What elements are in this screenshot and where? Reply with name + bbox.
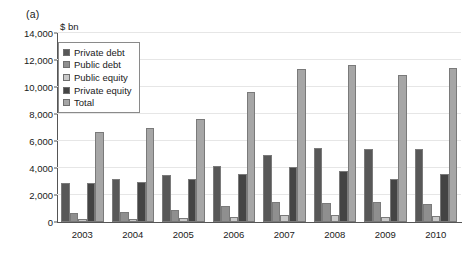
bar[interactable]: [331, 215, 340, 222]
bar-group: 2007: [259, 33, 310, 222]
bar[interactable]: [179, 218, 188, 222]
legend-swatch-icon: [63, 61, 70, 68]
bar[interactable]: [280, 215, 289, 222]
y-axis-tick-label: 8,000: [29, 109, 57, 120]
legend-item[interactable]: Private equity: [63, 84, 132, 97]
bar[interactable]: [221, 206, 230, 222]
bar[interactable]: [137, 182, 146, 223]
bar[interactable]: [188, 179, 197, 222]
bar[interactable]: [297, 69, 306, 222]
x-axis-tick-label: 2006: [209, 229, 260, 240]
bar-group: 2008: [310, 33, 361, 222]
bar-group: 2010: [411, 33, 462, 222]
bar[interactable]: [87, 183, 96, 222]
bar[interactable]: [322, 203, 331, 222]
x-axis-tick-label: 2005: [158, 229, 209, 240]
bar[interactable]: [78, 219, 87, 222]
x-axis-tick-label: 2007: [259, 229, 310, 240]
figure: (a) $ bn 02,0004,0006,0008,00010,00012,0…: [0, 0, 476, 266]
bar[interactable]: [440, 174, 449, 222]
y-axis-tick-label: 4,000: [29, 163, 57, 174]
x-axis-line: [57, 222, 462, 223]
bar[interactable]: [263, 155, 272, 223]
legend-item[interactable]: Public debt: [63, 59, 132, 72]
bar[interactable]: [415, 149, 424, 222]
bar[interactable]: [432, 216, 441, 222]
bar[interactable]: [348, 65, 357, 222]
y-axis-tick-label: 6,000: [29, 136, 57, 147]
bar-group-bars: [411, 33, 462, 222]
bar[interactable]: [146, 128, 155, 222]
bar-group-bars: [158, 33, 209, 222]
panel-label: (a): [26, 8, 39, 20]
bar-group-bars: [310, 33, 361, 222]
bar[interactable]: [171, 210, 180, 222]
bar[interactable]: [272, 202, 281, 222]
bar[interactable]: [449, 68, 458, 222]
bar[interactable]: [238, 174, 247, 222]
bar[interactable]: [373, 202, 382, 222]
bar-group: 2009: [360, 33, 411, 222]
legend-item-label: Private debt: [74, 47, 125, 58]
y-axis-tick-label: 14,000: [24, 28, 57, 39]
bar[interactable]: [196, 119, 205, 222]
bar-group: 2006: [209, 33, 260, 222]
x-axis-tick-label: 2003: [57, 229, 108, 240]
x-axis-tick-label: 2004: [108, 229, 159, 240]
legend-item[interactable]: Public equity: [63, 71, 132, 84]
bar[interactable]: [423, 204, 432, 222]
x-axis-tick-label: 2010: [411, 229, 462, 240]
bar[interactable]: [314, 148, 323, 222]
bar[interactable]: [213, 166, 222, 222]
bar[interactable]: [398, 75, 407, 222]
legend-swatch-icon: [63, 87, 70, 94]
y-axis-tick-label: 10,000: [24, 82, 57, 93]
y-axis-unit-label: $ bn: [60, 21, 79, 32]
x-axis-tick-label: 2008: [310, 229, 361, 240]
bar[interactable]: [390, 179, 399, 222]
legend-swatch-icon: [63, 49, 70, 56]
bar[interactable]: [230, 217, 239, 222]
bar[interactable]: [120, 212, 129, 222]
legend-swatch-icon: [63, 99, 70, 106]
legend-item-label: Total: [74, 97, 94, 108]
legend-item[interactable]: Total: [63, 96, 132, 109]
legend-item[interactable]: Private debt: [63, 46, 132, 59]
bar[interactable]: [339, 171, 348, 222]
bar-group-bars: [209, 33, 260, 222]
legend-item-label: Public equity: [74, 72, 128, 83]
y-axis-tick-label: 0: [48, 217, 57, 228]
bar[interactable]: [364, 149, 373, 222]
bar[interactable]: [129, 219, 138, 222]
legend-item-label: Private equity: [74, 85, 132, 96]
bar[interactable]: [162, 175, 171, 222]
bar[interactable]: [95, 132, 104, 222]
bar[interactable]: [381, 217, 390, 222]
bar[interactable]: [61, 183, 70, 222]
legend-swatch-icon: [63, 74, 70, 81]
bar[interactable]: [112, 179, 121, 222]
bar[interactable]: [247, 92, 256, 222]
bar-group: 2005: [158, 33, 209, 222]
bar[interactable]: [70, 213, 79, 222]
x-axis-tick-label: 2009: [360, 229, 411, 240]
y-axis-tick-label: 12,000: [24, 55, 57, 66]
chart-legend: Private debtPublic debtPublic equityPriv…: [58, 42, 140, 113]
bar-group-bars: [259, 33, 310, 222]
bar-group-bars: [360, 33, 411, 222]
bar[interactable]: [289, 167, 298, 222]
y-axis-tick-label: 2,000: [29, 190, 57, 201]
legend-item-label: Public debt: [74, 59, 121, 70]
